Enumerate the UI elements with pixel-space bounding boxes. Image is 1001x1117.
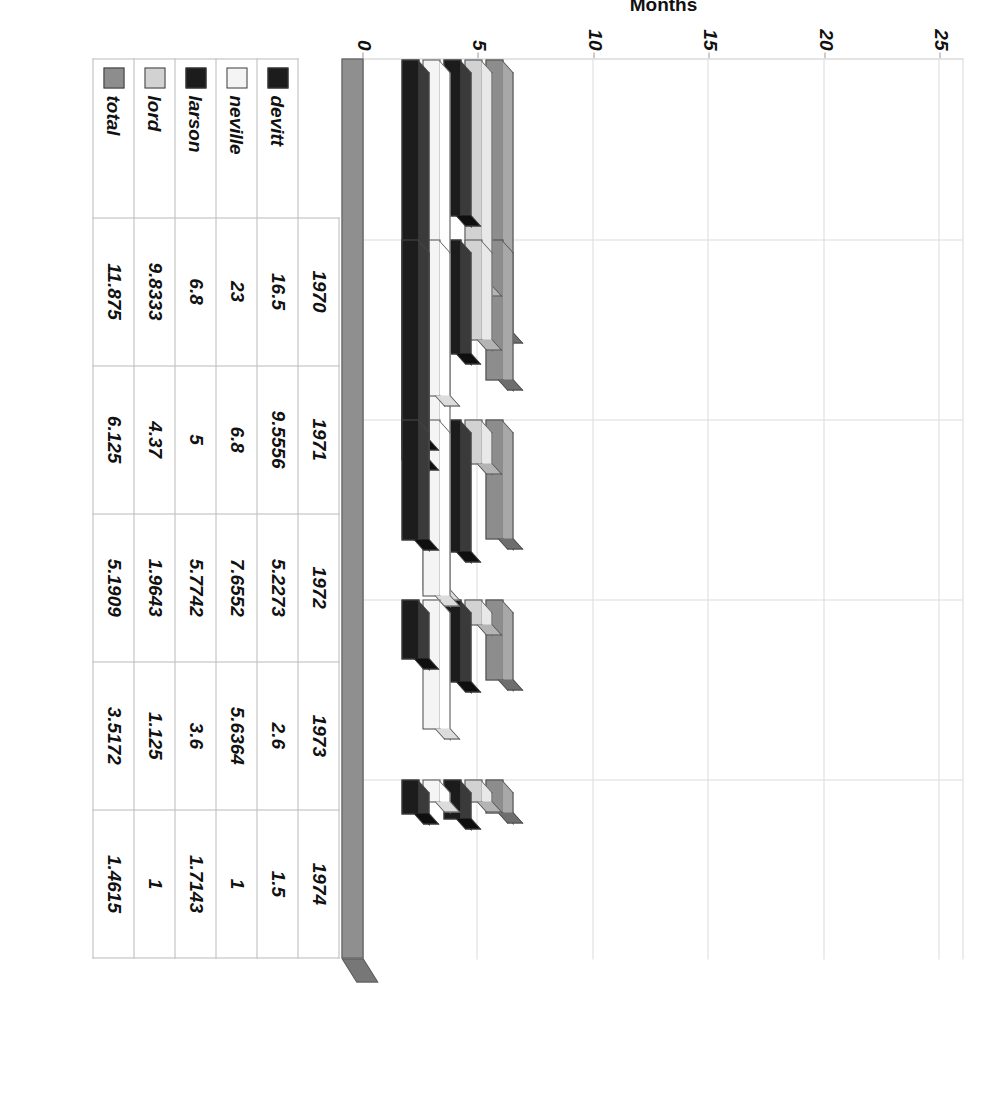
table-cell: 5.1909 bbox=[93, 513, 134, 661]
bar-top-face bbox=[481, 240, 492, 351]
bar-top-face bbox=[460, 600, 471, 693]
bar-top-face bbox=[460, 420, 471, 563]
bar-group bbox=[362, 239, 962, 419]
table-cell: 1 bbox=[216, 809, 257, 957]
bar-devitt-1973 bbox=[401, 599, 419, 659]
table-header-row: 19701971197219731974 bbox=[298, 59, 339, 958]
bar-group bbox=[362, 59, 962, 239]
legend-label: neville bbox=[226, 95, 247, 154]
value-tick-label: 25 bbox=[929, 29, 951, 50]
table-cell: 7.6552 bbox=[216, 513, 257, 661]
plot-area-wrapper bbox=[363, 58, 963, 958]
table-cell: 1.5 bbox=[257, 809, 298, 957]
value-tick-mark bbox=[362, 52, 363, 58]
legend-label: larson bbox=[185, 95, 206, 152]
bar-devitt-1972 bbox=[401, 419, 419, 540]
legend-cell-total[interactable]: total bbox=[93, 59, 134, 218]
value-tick-label: 5 bbox=[467, 39, 489, 50]
table-cell: 1.9643 bbox=[134, 513, 175, 661]
legend-cell-devitt[interactable]: devitt bbox=[257, 59, 298, 218]
bar-top-face bbox=[439, 240, 450, 407]
bar-top-face bbox=[460, 240, 471, 366]
table-cell: 16.5 bbox=[257, 217, 298, 365]
table-cell: 6.8 bbox=[216, 365, 257, 513]
bar-side-face bbox=[455, 681, 481, 692]
value-tick-mark bbox=[708, 52, 709, 58]
plot-area bbox=[362, 58, 963, 959]
bar-side-face bbox=[497, 379, 523, 390]
bar-side-face bbox=[413, 813, 439, 824]
bar-top-face bbox=[460, 60, 471, 227]
bar-top-face bbox=[439, 600, 450, 740]
legend-swatch-icon bbox=[227, 67, 248, 88]
table-row: larson6.855.77423.61.7143 bbox=[175, 59, 216, 958]
table-corner-cell bbox=[298, 59, 339, 218]
table-cell: 4.37 bbox=[134, 365, 175, 513]
table-cell: 3.6 bbox=[175, 661, 216, 809]
table-year-header: 1970 bbox=[298, 217, 339, 365]
3d-back-wall-cap bbox=[341, 958, 378, 982]
table-cell: 3.5172 bbox=[93, 661, 134, 809]
table-cell: 5.6364 bbox=[216, 661, 257, 809]
value-tick-mark bbox=[824, 52, 825, 58]
bar-groups bbox=[362, 59, 962, 959]
bar-top-face bbox=[502, 240, 513, 392]
data-table: 19701971197219731974devitt16.59.55565.22… bbox=[92, 58, 339, 958]
bar-side-face bbox=[497, 812, 523, 823]
table-cell: 1.125 bbox=[134, 661, 175, 809]
table-year-header: 1971 bbox=[298, 365, 339, 513]
bar-top-face bbox=[502, 600, 513, 691]
value-tick-label: 20 bbox=[814, 29, 836, 50]
bar-top-face bbox=[439, 420, 450, 607]
bar-side-face bbox=[434, 728, 460, 739]
table-cell: 5.2273 bbox=[257, 513, 298, 661]
legend-label: total bbox=[103, 95, 124, 135]
value-axis: 0510152025 Months bbox=[363, 0, 963, 58]
table-cell: 6.125 bbox=[93, 365, 134, 513]
legend-swatch-icon bbox=[268, 67, 289, 88]
value-tick-mark bbox=[593, 52, 594, 58]
bar-group bbox=[362, 779, 962, 959]
value-tick-mark bbox=[939, 52, 940, 58]
table-row: total11.8756.1255.19093.51721.4615 bbox=[93, 59, 134, 958]
bar-side-face bbox=[497, 679, 523, 690]
table-year-header: 1973 bbox=[298, 661, 339, 809]
value-tick-label: 10 bbox=[583, 29, 605, 50]
table-row: lord9.83334.371.96431.1251 bbox=[134, 59, 175, 958]
table-cell: 9.5556 bbox=[257, 365, 298, 513]
table-cell: 5.7742 bbox=[175, 513, 216, 661]
table-cell: 1.7143 bbox=[175, 809, 216, 957]
bar-group bbox=[362, 419, 962, 599]
legend-cell-lord[interactable]: lord bbox=[134, 59, 175, 218]
bar-top-face bbox=[418, 420, 429, 551]
table-cell: 5 bbox=[175, 365, 216, 513]
legend-cell-neville[interactable]: neville bbox=[216, 59, 257, 218]
bar-devitt-1974 bbox=[401, 779, 419, 814]
table-cell: 23 bbox=[216, 217, 257, 365]
rotated-chart-canvas: 0510152025 Months 19701971197219731974de… bbox=[0, 0, 1001, 1117]
bar-side-face bbox=[497, 538, 523, 549]
table-cell: 1.4615 bbox=[93, 809, 134, 957]
legend-cell-larson[interactable]: larson bbox=[175, 59, 216, 218]
bar-group bbox=[362, 599, 962, 779]
value-axis-title: Months bbox=[583, 0, 743, 15]
bar-top-face bbox=[502, 420, 513, 550]
legend-label: devitt bbox=[267, 95, 288, 146]
table-cell: 2.6 bbox=[257, 661, 298, 809]
table-cell: 11.875 bbox=[93, 217, 134, 365]
3d-back-wall bbox=[341, 58, 363, 958]
bar-side-face bbox=[455, 818, 481, 829]
table-cell: 1 bbox=[134, 809, 175, 957]
legend-swatch-icon bbox=[145, 67, 166, 88]
legend-swatch-icon bbox=[104, 67, 125, 88]
table-year-header: 1972 bbox=[298, 513, 339, 661]
value-tick-label: 0 bbox=[352, 39, 374, 50]
bar-side-face bbox=[455, 551, 481, 562]
legend-swatch-icon bbox=[186, 67, 207, 88]
table-cell: 9.8333 bbox=[134, 217, 175, 365]
table-row: neville236.87.65525.63641 bbox=[216, 59, 257, 958]
bar-side-face bbox=[455, 353, 481, 364]
table-year-header: 1974 bbox=[298, 809, 339, 957]
table-cell: 6.8 bbox=[175, 217, 216, 365]
value-tick-label: 15 bbox=[698, 29, 720, 50]
